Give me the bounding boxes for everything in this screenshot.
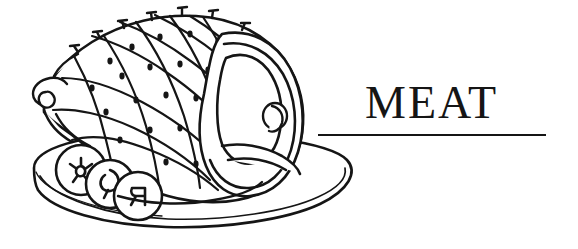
page-root: MEAT [0, 0, 578, 249]
divider-rule [318, 134, 546, 136]
hock-knob [39, 92, 55, 108]
page-title: MEAT [365, 78, 555, 128]
